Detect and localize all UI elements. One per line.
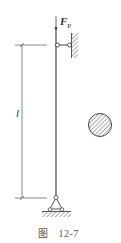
cross-section: [88, 113, 112, 137]
caption-prefix: 图: [38, 228, 49, 239]
ground-hatch: [42, 212, 71, 217]
length-dimension: [15, 43, 47, 200]
load-arrow: [55, 16, 58, 32]
load-label: FP: [60, 16, 71, 30]
top-support: [56, 33, 79, 58]
bottom-hinge: [54, 196, 58, 200]
bottom-pin-support: [42, 196, 71, 218]
figure-caption: 图12-7: [38, 229, 79, 239]
top-hinge-column: [56, 43, 60, 47]
wall-hatch: [72, 33, 78, 58]
column-diagram: [0, 0, 121, 243]
top-hinge-wall: [68, 43, 72, 47]
length-label: l: [16, 108, 19, 119]
caption-number: 12-7: [59, 228, 79, 239]
